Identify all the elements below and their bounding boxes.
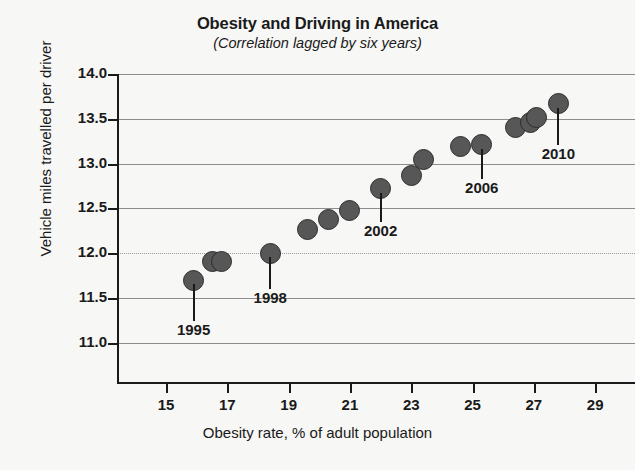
y-axis-tick	[108, 298, 117, 300]
x-axis-tick	[534, 384, 536, 393]
x-axis-tick	[289, 384, 291, 393]
x-axis-tick-label: 19	[269, 396, 309, 413]
y-axis-tick	[108, 253, 117, 255]
y-axis-tick	[108, 119, 117, 121]
x-axis-tick	[411, 384, 413, 393]
x-axis-title: Obesity rate, % of adult population	[0, 424, 635, 441]
annotation-leader-line	[481, 149, 483, 180]
x-axis-tick	[473, 384, 475, 393]
y-axis-tick-label: 13.5	[51, 109, 107, 126]
x-axis-tick	[595, 384, 597, 393]
y-axis-tick-label: 12.5	[51, 198, 107, 215]
x-axis-tick	[227, 384, 229, 393]
x-axis-tick-label: 15	[146, 396, 186, 413]
x-axis-tick-label: 23	[391, 396, 431, 413]
y-axis-tick-label: 11.5	[51, 288, 107, 305]
annotation-label: 1995	[177, 321, 210, 338]
annotation-label: 1998	[254, 289, 287, 306]
y-axis-tick	[108, 74, 117, 76]
gridline	[117, 343, 635, 344]
y-axis-tick-label: 14.0	[51, 64, 107, 81]
data-point	[413, 149, 434, 170]
x-axis-tick-label: 17	[207, 396, 247, 413]
y-axis-tick-label: 13.0	[51, 154, 107, 171]
gridline	[117, 74, 635, 75]
data-point	[318, 209, 339, 230]
y-axis-title: Vehicle miles travelled per driver	[37, 9, 54, 289]
x-axis-tick	[350, 384, 352, 393]
y-axis-tick	[108, 208, 117, 210]
annotation-label: 2002	[364, 222, 397, 239]
gridline	[117, 253, 635, 254]
x-axis-tick-label: 21	[330, 396, 370, 413]
chart-title: Obesity and Driving in America	[0, 14, 635, 33]
annotation-label: 2006	[465, 179, 498, 196]
gridline	[117, 164, 635, 165]
annotation-leader-line	[269, 257, 271, 289]
x-axis-tick-label: 25	[453, 396, 493, 413]
y-axis-line	[117, 74, 119, 383]
data-point	[450, 136, 471, 157]
y-axis-tick	[108, 164, 117, 166]
x-axis-tick-label: 29	[575, 396, 615, 413]
x-axis-tick	[166, 384, 168, 393]
x-axis-line	[117, 382, 635, 384]
chart-figure: Obesity and Driving in America (Correlat…	[0, 0, 635, 470]
gridline	[117, 208, 635, 209]
data-point	[297, 219, 318, 240]
annotation-leader-line	[380, 193, 382, 223]
data-point	[526, 107, 547, 128]
data-point	[211, 251, 232, 272]
data-point	[339, 200, 360, 221]
plot-area: 19951998200220062010	[117, 74, 635, 383]
x-axis-tick-label: 27	[514, 396, 554, 413]
gridline	[117, 298, 635, 299]
y-axis-tick	[108, 343, 117, 345]
y-axis-tick-label: 12.0	[51, 243, 107, 260]
annotation-leader-line	[193, 284, 195, 321]
annotation-leader-line	[557, 108, 559, 146]
annotation-label: 2010	[542, 145, 575, 162]
chart-subtitle: (Correlation lagged by six years)	[0, 35, 635, 51]
y-axis-tick-label: 11.0	[51, 333, 107, 350]
